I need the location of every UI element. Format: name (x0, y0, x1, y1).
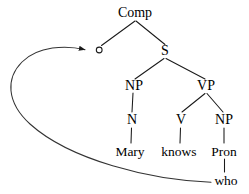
node-pron: Pron (211, 145, 237, 159)
node-np-subject: NP (125, 79, 143, 93)
edge-vp-to-v (182, 94, 205, 113)
leaf-knows: knows (161, 145, 196, 159)
edge-v-to-knows (180, 128, 181, 143)
node-s: S (161, 44, 169, 58)
tree-lines (0, 0, 249, 194)
edge-comp-to-s (136, 21, 165, 45)
node-n: N (127, 113, 137, 127)
node-comp: Comp (118, 6, 152, 20)
edge-s-to-vp (166, 59, 205, 80)
leaf-mary: Mary (115, 145, 144, 159)
edge-comp-to-trace (102, 21, 136, 46)
empty-category-circle (96, 47, 102, 53)
leaf-who: who (214, 174, 237, 188)
syntax-tree-diagram: Comp S NP VP N V NP Mary knows Pron who (0, 0, 249, 194)
node-v: V (176, 113, 186, 127)
node-vp: VP (197, 79, 215, 93)
edge-n-to-mary (131, 128, 132, 143)
node-np-object: NP (215, 113, 233, 127)
edge-s-to-np-subject (135, 59, 164, 80)
edge-np-subject-to-n (132, 93, 133, 112)
edge-vp-to-np-object (207, 94, 223, 113)
